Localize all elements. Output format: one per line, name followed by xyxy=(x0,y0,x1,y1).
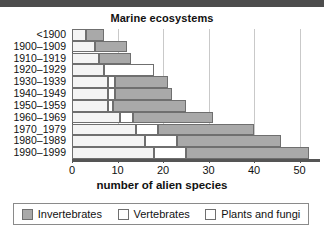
bar-segment-inv[interactable] xyxy=(99,53,131,65)
bar-row[interactable] xyxy=(72,53,320,65)
bar-segment-pla[interactable] xyxy=(72,100,108,112)
x-axis-tick-label: 20 xyxy=(148,164,178,176)
bar-segment-pla[interactable] xyxy=(72,112,120,124)
bar-segment-inv[interactable] xyxy=(113,100,186,112)
chart-title: Marine ecosystems xyxy=(0,12,324,24)
bar-row[interactable] xyxy=(72,64,320,76)
x-axis-title: number of alien species xyxy=(0,179,324,191)
bar-segment-pla[interactable] xyxy=(72,147,154,159)
x-axis-tick xyxy=(72,159,73,163)
bar-segment-pla[interactable] xyxy=(72,76,108,88)
bar-segment-ver[interactable] xyxy=(120,112,134,124)
x-axis-line xyxy=(72,159,320,162)
y-axis-label: 1950–1959 xyxy=(13,100,66,112)
chart-legend: Invertebrates Vertebrates Plants and fun… xyxy=(13,203,309,225)
bar-segment-pla[interactable] xyxy=(72,53,99,65)
bar-segment-ver[interactable] xyxy=(108,76,115,88)
filled-gray-swatch-icon xyxy=(22,209,33,220)
bar-segment-inv[interactable] xyxy=(133,112,213,124)
legend-label-vertebrates: Vertebrates xyxy=(134,208,190,220)
legend-item-vertebrates: Vertebrates xyxy=(118,208,190,220)
x-axis-tick-label: 30 xyxy=(194,164,224,176)
x-axis-tick xyxy=(163,159,164,163)
x-axis-tick xyxy=(254,159,255,163)
bar-segment-inv[interactable] xyxy=(177,135,282,147)
bar-row[interactable] xyxy=(72,41,320,53)
bar-segment-ver[interactable] xyxy=(154,147,186,159)
bar-segment-ver[interactable] xyxy=(108,88,115,100)
y-axis-label: 1900–1909 xyxy=(13,41,66,53)
bar-row[interactable] xyxy=(72,112,320,124)
x-axis-tick-label: 10 xyxy=(103,164,133,176)
x-axis-tick-label: 0 xyxy=(57,164,87,176)
bar-segment-inv[interactable] xyxy=(115,76,167,88)
bar-segment-inv[interactable] xyxy=(186,147,309,159)
empty-swatch-icon xyxy=(118,209,129,220)
x-axis-tick xyxy=(118,159,119,163)
legend-item-plants-and-fungi: Plants and fungi xyxy=(205,208,300,220)
bar-segment-pla[interactable] xyxy=(72,124,136,136)
bar-row[interactable] xyxy=(72,88,320,100)
legend-label-invertebrates: Invertebrates xyxy=(38,208,102,220)
plot-area xyxy=(72,29,320,159)
bar-segment-pla[interactable] xyxy=(72,64,104,76)
bar-segment-pla[interactable] xyxy=(72,88,108,100)
bar-segment-inv[interactable] xyxy=(86,29,104,41)
empty-swatch-icon xyxy=(205,209,216,220)
bar-segment-ver[interactable] xyxy=(136,124,159,136)
bar-segment-inv[interactable] xyxy=(158,124,254,136)
legend-item-invertebrates: Invertebrates xyxy=(22,208,102,220)
bar-segment-ver[interactable] xyxy=(104,64,154,76)
x-axis-tick xyxy=(300,159,301,163)
bar-row[interactable] xyxy=(72,76,320,88)
x-axis-tick-label: 40 xyxy=(239,164,269,176)
bar-row[interactable] xyxy=(72,29,320,41)
bar-row[interactable] xyxy=(72,135,320,147)
bar-segment-ver[interactable] xyxy=(145,135,177,147)
bar-segment-inv[interactable] xyxy=(115,88,172,100)
bar-row[interactable] xyxy=(72,124,320,136)
chart-figure: Marine ecosystems <19001900–19091910–191… xyxy=(0,7,324,229)
bar-segment-pla[interactable] xyxy=(72,29,86,41)
legend-label-plants-and-fungi: Plants and fungi xyxy=(221,208,300,220)
bar-segment-pla[interactable] xyxy=(72,41,95,53)
bar-row[interactable] xyxy=(72,100,320,112)
x-axis-tick xyxy=(209,159,210,163)
y-axis-category-labels: <19001900–19091910–19191920–19291930–193… xyxy=(0,29,68,159)
y-axis-label: 1960–1969 xyxy=(13,112,66,124)
x-axis-tick-label: 50 xyxy=(285,164,315,176)
bar-segment-pla[interactable] xyxy=(72,135,145,147)
bar-row[interactable] xyxy=(72,147,320,159)
bar-segment-inv[interactable] xyxy=(95,41,127,53)
top-page-rule xyxy=(0,0,324,7)
y-axis-label: 1990–1999 xyxy=(13,147,66,159)
